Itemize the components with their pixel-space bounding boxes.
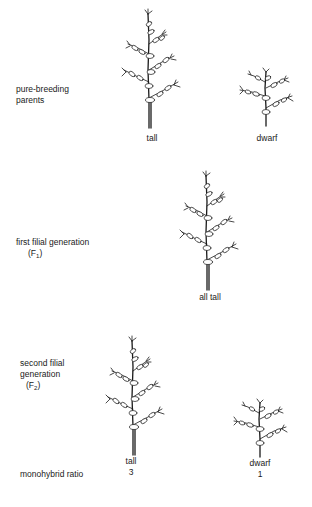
f2-tall-plant-icon: [102, 337, 168, 457]
parents-label-line-1: pure-breeding: [16, 84, 69, 95]
f2-label-line-2: generation: [20, 369, 64, 380]
f1-caption: all tall: [188, 292, 232, 303]
dwarf-parent-caption: dwarf: [251, 133, 283, 144]
tall-parent-plant-icon: [118, 10, 184, 130]
dwarf-parent-plant-icon: [238, 68, 294, 128]
f2-label-line-1: second filial: [20, 358, 64, 369]
parents-label: pure-breeding parents: [16, 84, 69, 106]
f2-dwarf-caption-label: dwarf: [242, 458, 278, 469]
f1-label-symbol: (F1): [16, 248, 89, 262]
parents-label-line-2: parents: [16, 95, 69, 106]
f2-tall-ratio-value: 3: [116, 467, 146, 478]
f2-label-symbol: (F2): [20, 380, 64, 394]
f2-dwarf-caption: dwarf 1: [242, 458, 278, 480]
f2-dwarf-plant-icon: [232, 399, 288, 459]
f1-label-line-1: first filial generation: [16, 237, 89, 248]
f2-tall-caption: tall 3: [116, 456, 146, 478]
f1-tall-plant-icon: [176, 172, 242, 292]
tall-parent-caption: tall: [137, 133, 167, 144]
f2-label: second filial generation (F2): [20, 358, 64, 394]
monohybrid-ratio-label: monohybrid ratio: [20, 469, 83, 480]
f1-label: first filial generation (F1): [16, 237, 89, 262]
f2-tall-caption-label: tall: [116, 456, 146, 467]
f2-dwarf-ratio-value: 1: [242, 469, 278, 480]
